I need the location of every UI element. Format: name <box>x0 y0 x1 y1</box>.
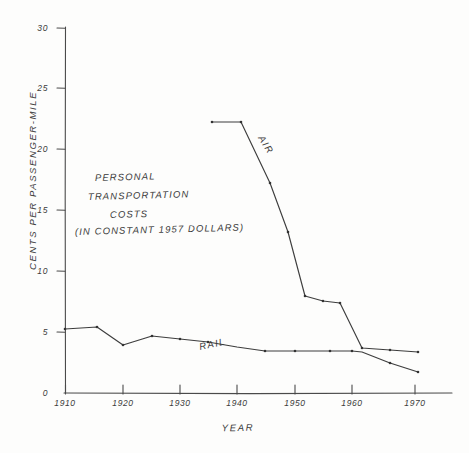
x-tick-label-1960: 1960 <box>341 398 362 408</box>
x-axis-title: YEAR <box>222 422 255 434</box>
x-tick-label-1950: 1950 <box>284 398 305 408</box>
data-point <box>389 362 392 365</box>
y-tick-label-20: 20 <box>36 144 48 154</box>
data-point <box>179 338 182 341</box>
hand-drawn-line-chart: 30 25 20 15 10 5 0 1910 1920 1930 1940 1… <box>0 0 469 453</box>
data-point <box>64 328 67 331</box>
data-point <box>389 349 392 352</box>
x-tick-label-1940: 1940 <box>226 398 247 408</box>
data-point <box>294 350 297 353</box>
data-point <box>351 350 354 353</box>
series-line-rail <box>65 327 418 372</box>
y-tick-label-30: 30 <box>37 23 48 33</box>
data-point <box>304 295 307 298</box>
series-label-rail: RAIL <box>198 336 226 352</box>
x-tick-label-1920: 1920 <box>112 398 133 408</box>
series-label-air: AIR <box>256 132 276 156</box>
y-tick-label-10: 10 <box>37 266 48 276</box>
annotation-line-3: COSTS <box>110 208 149 220</box>
y-axis-title: CENTS PER PASSENGER-MILE <box>27 91 38 270</box>
data-point <box>269 182 272 185</box>
data-point <box>417 351 420 354</box>
chart-page: 30 25 20 15 10 5 0 1910 1920 1930 1940 1… <box>0 0 469 453</box>
data-point <box>339 302 342 305</box>
x-tick-label-1930: 1930 <box>169 398 190 408</box>
data-point <box>122 344 125 347</box>
data-point <box>322 300 325 303</box>
data-point <box>211 121 214 124</box>
data-point <box>329 350 332 353</box>
data-point <box>264 350 267 353</box>
data-point <box>96 326 99 329</box>
data-point <box>417 371 420 374</box>
y-tick-label-5: 5 <box>43 327 48 337</box>
y-tick-label-0: 0 <box>43 388 48 398</box>
data-point <box>361 347 364 350</box>
y-tick-label-25: 25 <box>36 83 48 93</box>
x-tick-label-1970: 1970 <box>404 398 425 408</box>
data-point <box>151 335 154 338</box>
series-line-air <box>212 122 418 352</box>
annotation-line-1: PERSONAL <box>95 170 156 183</box>
x-tick-label-1910: 1910 <box>54 398 75 408</box>
data-point <box>287 231 290 234</box>
data-point <box>240 121 243 124</box>
annotation-line-2: TRANSPORTATION <box>88 188 190 202</box>
annotation-line-4: (IN CONSTANT 1957 DOLLARS) <box>75 222 245 237</box>
x-axis-line <box>64 393 452 394</box>
y-tick-label-15: 15 <box>37 205 48 215</box>
